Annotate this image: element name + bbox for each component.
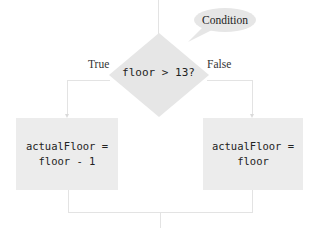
true-statement-line-1: actualFloor = bbox=[26, 139, 108, 154]
false-statement-line-2: floor bbox=[237, 154, 269, 169]
false-branch-connector-h bbox=[207, 80, 253, 81]
false-statement-line-1: actualFloor = bbox=[212, 139, 294, 154]
false-statement-box: actualFloor = floor bbox=[203, 118, 303, 190]
true-statement-line-2: floor - 1 bbox=[39, 154, 96, 169]
true-statement-box: actualFloor = floor - 1 bbox=[16, 118, 118, 190]
decision-condition-text: floor > 13? bbox=[108, 66, 209, 79]
true-merge-connector-v bbox=[68, 190, 69, 212]
incoming-connector bbox=[158, 0, 159, 36]
false-merge-connector-v bbox=[252, 190, 253, 212]
condition-callout-label: Condition bbox=[196, 14, 254, 26]
true-branch-connector-h bbox=[67, 80, 110, 81]
true-branch-label: True bbox=[88, 58, 109, 70]
true-branch-connector-v bbox=[67, 80, 68, 116]
false-branch-connector-v bbox=[252, 80, 253, 116]
outgoing-connector bbox=[160, 212, 161, 228]
false-branch-label: False bbox=[207, 58, 231, 70]
